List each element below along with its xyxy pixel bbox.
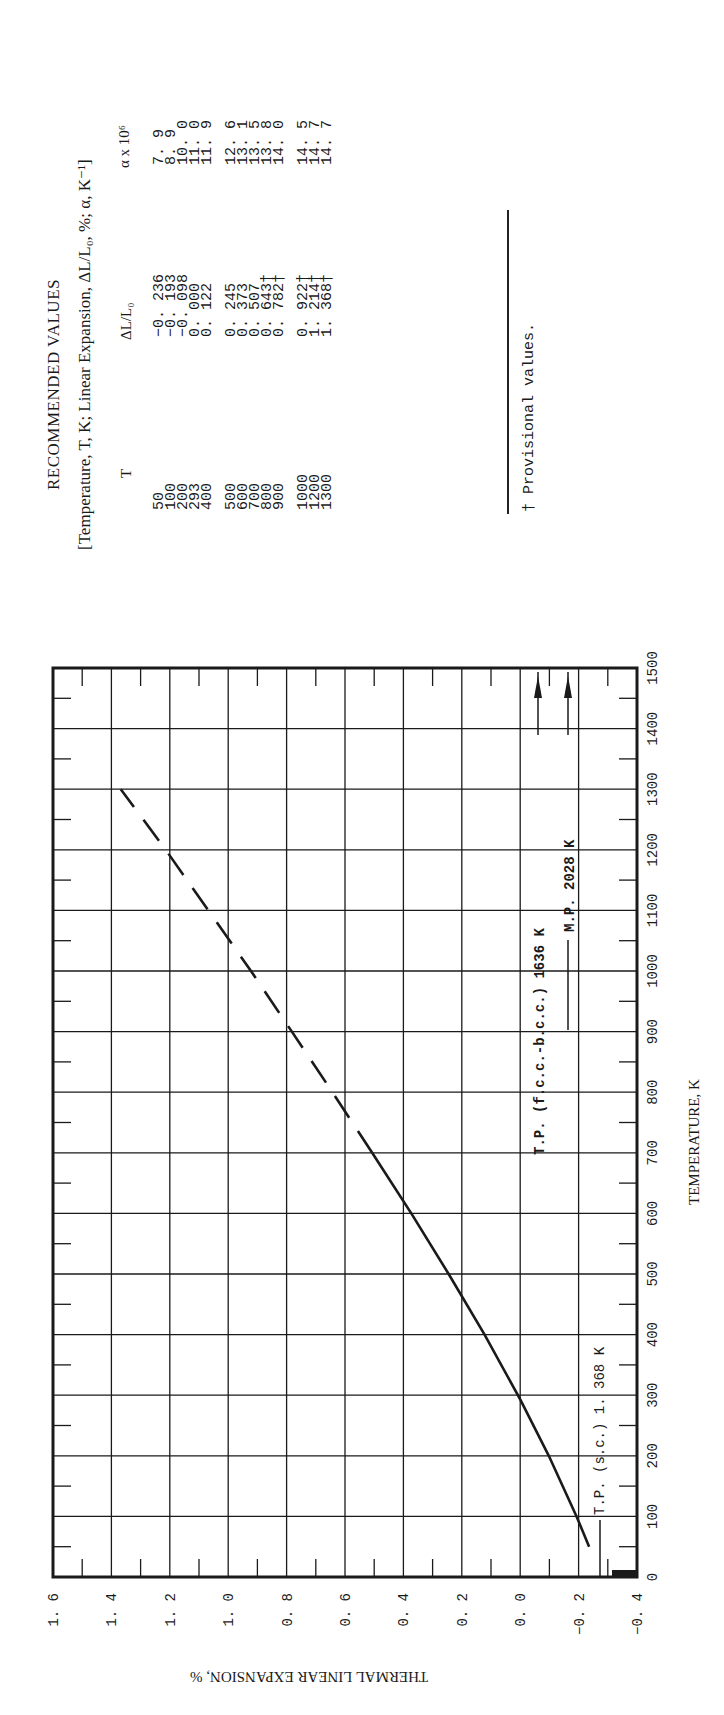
chart-annotations: T.P. (s.c.) 1. 368 KT.P. (f.c.c.-b.c.c.)… <box>532 672 636 1577</box>
footnote: † Provisional values. <box>521 323 538 512</box>
footnote-rule <box>507 210 509 514</box>
axis-tick-labels: 1. 61. 41. 21. 00. 80. 60. 40. 20. 0−0. … <box>46 651 661 1635</box>
svg-text:600: 600 <box>645 1201 661 1226</box>
column-header-t: T <box>118 469 135 478</box>
svg-text:0. 4: 0. 4 <box>396 1593 412 1627</box>
svg-text:−0. 2: −0. 2 <box>572 1593 588 1635</box>
svg-text:T.P. (s.c.) 1. 368 K: T.P. (s.c.) 1. 368 K <box>592 1346 608 1515</box>
table-subtitle: [Temperature, T, K; Linear Expansion, ΔL… <box>74 159 95 550</box>
svg-text:500: 500 <box>645 1261 661 1286</box>
expansion-curve <box>121 789 589 1546</box>
svg-text:1500: 1500 <box>645 651 661 685</box>
svg-text:1000: 1000 <box>645 954 661 988</box>
svg-text:1200: 1200 <box>645 833 661 867</box>
cell-alpha: 11. 9 <box>202 120 214 165</box>
cell-temperature: 400 <box>202 483 214 510</box>
column-header-alpha: α x 10⁶ <box>116 125 133 168</box>
svg-text:M.P. 2028 K: M.P. 2028 K <box>562 839 578 932</box>
cell-expansion: 0. 782† <box>274 274 286 337</box>
cell-temperature: 1300 <box>322 474 334 510</box>
svg-text:200: 200 <box>645 1443 661 1468</box>
svg-text:300: 300 <box>645 1383 661 1408</box>
y-axis-title: THERMAL LINEAR EXPANSION, % <box>190 1668 428 1685</box>
svg-text:0. 2: 0. 2 <box>455 1593 471 1627</box>
svg-text:T.P. (f.c.c.-b.c.c.) 1636 K: T.P. (f.c.c.-b.c.c.) 1636 K <box>532 928 548 1155</box>
svg-text:1. 0: 1. 0 <box>221 1593 237 1627</box>
table-title: RECOMMENDED VALUES <box>44 279 64 490</box>
svg-text:1400: 1400 <box>645 712 661 746</box>
svg-text:−0. 4: −0. 4 <box>630 1593 646 1635</box>
svg-text:1. 2: 1. 2 <box>163 1593 179 1627</box>
cell-alpha: 14. 7 <box>322 120 334 165</box>
svg-text:1. 4: 1. 4 <box>104 1593 120 1627</box>
column-header-dl: ΔL/L₀ <box>118 303 135 340</box>
thermal-expansion-chart: 1. 61. 41. 21. 00. 80. 60. 40. 20. 0−0. … <box>0 0 724 1715</box>
svg-text:0: 0 <box>645 1573 661 1581</box>
svg-text:0. 0: 0. 0 <box>513 1593 529 1627</box>
svg-text:400: 400 <box>645 1322 661 1347</box>
svg-text:100: 100 <box>645 1504 661 1529</box>
chart-grid <box>53 668 637 1577</box>
cell-temperature: 900 <box>274 483 286 510</box>
cell-alpha: 14. 0 <box>274 120 286 165</box>
svg-text:0. 8: 0. 8 <box>280 1593 296 1627</box>
svg-text:1. 6: 1. 6 <box>46 1593 62 1627</box>
cell-expansion: 1. 368† <box>322 274 334 337</box>
svg-text:700: 700 <box>645 1140 661 1165</box>
svg-text:0. 6: 0. 6 <box>338 1593 354 1627</box>
svg-text:1100: 1100 <box>645 894 661 928</box>
x-axis-title: TEMPERATURE, K <box>686 1079 703 1205</box>
svg-text:800: 800 <box>645 1080 661 1105</box>
svg-text:1300: 1300 <box>645 772 661 806</box>
cell-expansion: 0. 122 <box>202 283 214 337</box>
svg-text:900: 900 <box>645 1019 661 1044</box>
